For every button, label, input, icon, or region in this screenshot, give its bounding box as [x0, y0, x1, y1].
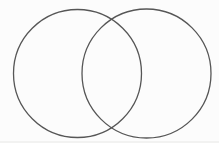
right-circle	[82, 9, 211, 138]
venn-diagram-canvas	[0, 0, 219, 143]
left-circle	[14, 10, 142, 138]
venn-diagram	[0, 0, 219, 143]
